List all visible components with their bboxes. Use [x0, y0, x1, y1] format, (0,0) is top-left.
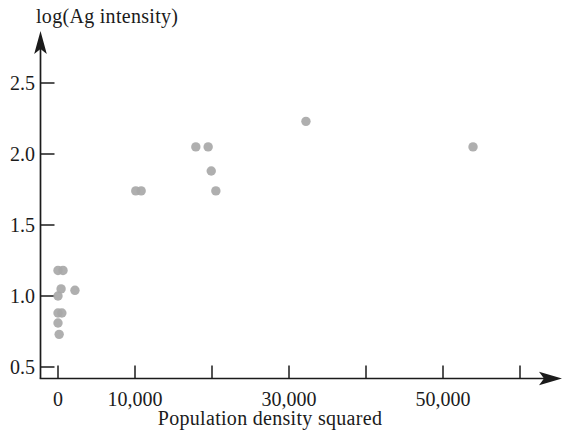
data-point	[468, 142, 477, 151]
y-tick-label: 2.0	[10, 143, 35, 165]
x-tick-label: 0	[53, 388, 63, 410]
data-point	[54, 330, 63, 339]
data-point	[191, 142, 200, 151]
data-point	[58, 266, 67, 275]
scatter-chart: log(Ag intensity) 0.51.01.52.02.5010,000…	[0, 0, 570, 439]
data-point	[57, 308, 66, 317]
data-point	[136, 186, 145, 195]
data-point	[211, 186, 220, 195]
data-point	[207, 166, 216, 175]
y-tick-label: 1.0	[10, 285, 35, 307]
data-point	[53, 291, 62, 300]
y-tick-label: 0.5	[10, 356, 35, 378]
data-point	[53, 318, 62, 327]
data-point	[70, 286, 79, 295]
x-axis-label: Population density squared	[158, 407, 382, 430]
data-point	[301, 117, 310, 126]
y-tick-label: 2.5	[10, 72, 35, 94]
data-point	[203, 142, 212, 151]
x-tick-label: 10,000	[108, 388, 163, 410]
y-tick-label: 1.5	[10, 214, 35, 236]
plot-area: 0.51.01.52.02.5010,00030,00050,000	[0, 0, 570, 439]
x-tick-label: 50,000	[416, 388, 471, 410]
